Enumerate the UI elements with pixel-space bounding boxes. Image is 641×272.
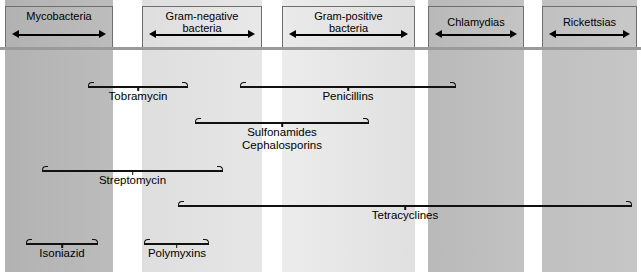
bracket-right-end: [626, 201, 632, 207]
header-box-rickettsias: Rickettsias: [542, 6, 637, 48]
antibiotic-spectrum-diagram: Mycobacteria Gram-negative bacteria Gram…: [0, 0, 641, 272]
drug-label-penicillins: Penicillins: [240, 90, 456, 103]
arrow-shaft: [294, 34, 403, 36]
header-label-rickettsias: Rickettsias: [563, 10, 616, 28]
header-separator-line: [0, 47, 641, 50]
range-arrow-gram-negative: [149, 30, 255, 39]
arrow-right-tip: [623, 30, 630, 38]
drug-label-streptomycin: Streptomycin: [42, 174, 223, 187]
bracket-right-end: [203, 239, 209, 245]
arrow-shaft: [440, 34, 512, 36]
arrow-right-tip: [401, 30, 408, 38]
range-arrow-rickettsias: [549, 30, 630, 39]
range-arrow-mycobacteria: [12, 30, 106, 39]
header-box-gram-positive: Gram-positive bacteria: [282, 6, 415, 48]
drug-label-sulfonamides-cephalosporins: Sulfonamides Cephalosporins: [195, 126, 369, 152]
header-label-mycobacteria: Mycobacteria: [26, 10, 91, 22]
bracket-right-end: [450, 82, 456, 88]
arrow-shaft: [154, 34, 250, 36]
header-box-mycobacteria: Mycobacteria: [5, 6, 113, 48]
arrow-shaft: [554, 34, 625, 36]
bracket-right-end: [92, 239, 98, 245]
range-arrow-chlamydias: [435, 30, 517, 39]
drug-label-polymyxins: Polymyxins: [133, 247, 221, 260]
header-box-gram-negative: Gram-negative bacteria: [142, 6, 262, 48]
drug-label-tobramycin: Tobramycin: [88, 90, 188, 103]
drug-label-isoniazid: Isoniazid: [26, 247, 98, 260]
header-label-chlamydias: Chlamydias: [447, 10, 504, 28]
arrow-right-tip: [248, 30, 255, 38]
header-box-chlamydias: Chlamydias: [428, 6, 524, 48]
range-arrow-gram-positive: [289, 30, 408, 39]
bracket-right-end: [363, 118, 369, 124]
arrow-right-tip: [99, 30, 106, 38]
arrow-right-tip: [510, 30, 517, 38]
arrow-shaft: [17, 34, 101, 36]
bracket-right-end: [217, 166, 223, 172]
drug-label-tetracyclines: Tetracyclines: [178, 209, 632, 222]
bracket-right-end: [182, 82, 188, 88]
